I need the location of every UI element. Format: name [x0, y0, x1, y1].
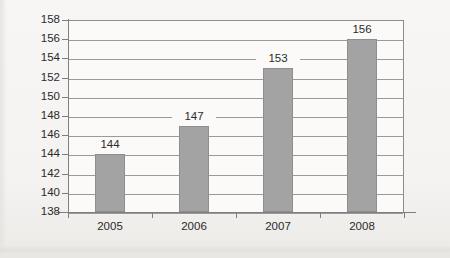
bar — [263, 68, 293, 212]
y-axis-tick — [62, 193, 69, 194]
x-axis-category-label: 2005 — [75, 221, 145, 233]
y-axis-tick-label: 146 — [26, 129, 60, 141]
bar — [179, 126, 209, 212]
y-axis-tick-label: 152 — [26, 72, 60, 84]
x-axis-tick — [404, 212, 405, 218]
scanned-page: 158156154152150148146144142140138 200520… — [0, 0, 450, 258]
y-axis-tick-label-text: 148 — [32, 110, 60, 122]
bar — [95, 154, 125, 212]
x-axis-category-label: 2008 — [327, 221, 397, 233]
bar-value-label: 144 — [88, 139, 132, 151]
y-axis-tick — [62, 20, 69, 21]
y-axis-tick — [62, 135, 69, 136]
y-axis-tick — [62, 58, 69, 59]
bar — [347, 39, 377, 212]
x-axis-category-label: 2006 — [159, 221, 229, 233]
x-axis-tick — [68, 212, 69, 218]
y-axis-tick-label-text: 142 — [32, 168, 60, 180]
y-axis-tick-label: 154 — [26, 52, 60, 64]
x-axis-category-label: 2007 — [243, 221, 313, 233]
y-axis-tick — [62, 78, 69, 79]
y-axis-tick-label: 158 — [26, 14, 60, 26]
bar-value-label: 153 — [256, 53, 300, 65]
y-axis-tick-label: 140 — [26, 187, 60, 199]
y-axis-tick-label-text: 154 — [32, 52, 60, 64]
y-axis-tick — [62, 116, 69, 117]
y-axis-tick-label-text: 150 — [32, 91, 60, 103]
y-axis-tick-label: 142 — [26, 168, 60, 180]
bar-chart: 158156154152150148146144142140138 200520… — [0, 0, 450, 258]
y-axis-tick-label-text: 144 — [32, 148, 60, 160]
bar-value-label: 147 — [172, 111, 216, 123]
y-axis-tick-label-text: 158 — [32, 14, 60, 26]
y-axis-tick-label-text: 152 — [32, 72, 60, 84]
x-axis-tick — [320, 212, 321, 218]
scan-edge-shadow-bottom — [0, 242, 450, 258]
y-axis-tick-label-text: 156 — [32, 33, 60, 45]
y-axis-tick-label: 150 — [26, 91, 60, 103]
x-axis-tick — [152, 212, 153, 218]
bar-value-label: 156 — [340, 24, 384, 36]
y-axis-tick-label-text: 140 — [32, 187, 60, 199]
y-axis-tick-label: 148 — [26, 110, 60, 122]
y-axis-tick-label-text: 138 — [32, 206, 60, 218]
y-axis-tick — [62, 154, 69, 155]
y-axis-tick — [62, 97, 69, 98]
y-axis-tick-label-text: 146 — [32, 129, 60, 141]
y-axis-tick-label: 144 — [26, 148, 60, 160]
y-axis-tick — [62, 39, 69, 40]
y-axis-tick-label: 156 — [26, 33, 60, 45]
x-axis-tick — [236, 212, 237, 218]
y-axis-tick — [62, 174, 69, 175]
y-axis-tick-label: 138 — [26, 206, 60, 218]
